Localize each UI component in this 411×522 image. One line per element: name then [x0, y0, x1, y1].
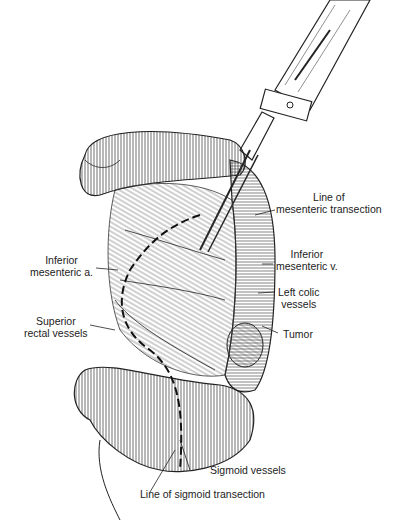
label-line-mesenteric-transection: Line of mesenteric transection: [276, 191, 382, 215]
label-text: Inferior: [30, 254, 93, 266]
label-text: rectal vessels: [24, 327, 88, 339]
label-left-colic-vessels: Left colic vessels: [278, 286, 319, 310]
label-text: vessels: [278, 298, 319, 310]
label-text: Inferior: [276, 248, 338, 260]
label-superior-rectal-vessels: Superior rectal vessels: [24, 315, 88, 339]
label-inferior-mesenteric-artery: Inferior mesenteric a.: [30, 254, 93, 278]
label-text: mesenteric transection: [276, 203, 382, 215]
label-tumor: Tumor: [283, 328, 313, 340]
label-text: Left colic: [278, 286, 319, 298]
label-line-sigmoid-transection: Line of sigmoid transection: [140, 488, 265, 500]
label-text: mesenteric a.: [30, 266, 93, 278]
label-inferior-mesenteric-vein: Inferior mesenteric v.: [276, 248, 338, 272]
label-text: Line of: [276, 191, 382, 203]
label-sigmoid-vessels: Sigmoid vessels: [210, 464, 286, 476]
label-text: Superior: [24, 315, 88, 327]
mesentery: [108, 183, 236, 376]
label-text: mesenteric v.: [276, 260, 338, 272]
